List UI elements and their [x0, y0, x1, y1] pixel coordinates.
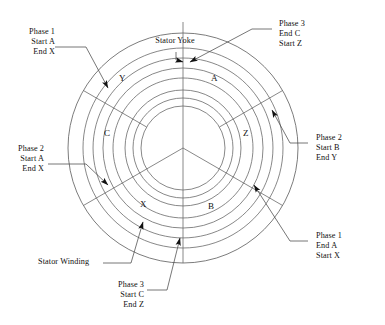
stator-winding-diagram: Stator Yoke Stator Winding Phase 1 Start…: [0, 0, 385, 325]
coil-side-z: Z: [243, 128, 249, 138]
callout-line-3: End Y: [316, 153, 382, 163]
leader-phase2-start-a: [48, 164, 108, 185]
callout-phase3-start-c: Phase 3 Start C End Z: [96, 280, 144, 311]
stator-winding-text: Stator Winding: [38, 257, 118, 267]
callout-line-2: Start A: [0, 37, 55, 47]
callout-line-2: Start A: [0, 154, 44, 164]
label-stator-yoke: Stator Yoke: [133, 36, 217, 46]
callout-line-1: Phase 3: [96, 280, 144, 290]
callout-line-2: Start B: [316, 143, 382, 153]
callout-line-3: End X: [0, 164, 44, 174]
callout-phase2-start-b: Phase 2 Start B End Y: [316, 133, 382, 164]
callout-line-2: End C: [279, 29, 349, 39]
label-stator-winding: Stator Winding: [38, 257, 118, 267]
callout-line-2: Start C: [96, 290, 144, 300]
callout-line-2: End A: [316, 241, 382, 251]
callout-line-1: Phase 2: [0, 144, 44, 154]
coil-side-c: C: [104, 128, 110, 138]
callout-line-3: Start X: [316, 251, 382, 261]
callout-phase2-start-a: Phase 2 Start A End X: [0, 144, 44, 175]
callout-phase1-end-a: Phase 1 End A Start X: [316, 231, 382, 262]
stator-yoke-text: Stator Yoke: [133, 36, 217, 46]
callout-line-3: End Z: [96, 300, 144, 310]
coil-side-a: A: [211, 73, 218, 83]
callout-phase1-start-a: Phase 1 Start A End X: [0, 27, 55, 58]
spoke-lower-right: [183, 148, 219, 169]
callout-phase3-end-c: Phase 3 End C Start Z: [279, 19, 349, 50]
callout-line-1: Phase 2: [316, 133, 382, 143]
leader-stator-yoke: [176, 52, 183, 62]
callout-line-1: Phase 3: [279, 19, 349, 29]
callout-line-3: Start Z: [279, 39, 349, 49]
callout-line-3: End X: [0, 47, 55, 57]
coil-side-b: B: [208, 201, 214, 211]
coil-side-x: X: [140, 199, 147, 209]
callout-line-1: Phase 1: [0, 27, 55, 37]
callout-line-1: Phase 1: [316, 231, 382, 241]
spoke-lower-left: [147, 148, 183, 169]
coil-side-y: Y: [119, 73, 126, 83]
leader-phase1-start-a: [55, 47, 108, 88]
